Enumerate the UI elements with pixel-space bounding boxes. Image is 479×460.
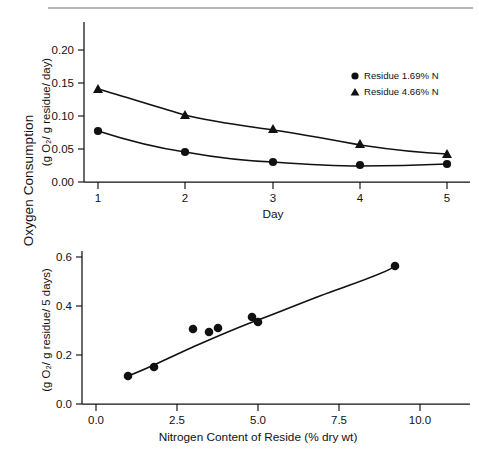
top-panel-y-tick-2: 0.10 xyxy=(52,110,74,122)
scatter-point xyxy=(254,318,263,327)
bottom-panel-y-ticks: 0.0 0.2 0.4 0.6 xyxy=(56,251,82,410)
scatter-point xyxy=(205,328,214,337)
top-panel-y-tick-1: 0.05 xyxy=(52,143,74,155)
top-panel-x-tick-1: 2 xyxy=(182,192,188,204)
top-panel-x-tick-0: 1 xyxy=(95,192,101,204)
top-panel-y-tick-0: 0.00 xyxy=(52,176,74,188)
top-panel-y-ticks: 0.00 0.05 0.10 0.15 0.20 xyxy=(52,44,84,188)
series-residue-169-markers xyxy=(94,127,451,169)
legend-label-residue-466: Residue 4.66% N xyxy=(364,86,439,97)
figure-container: Oxygen Consumption (g O₂/ g residue/ day… xyxy=(0,0,479,460)
legend-label-residue-169: Residue 1.69% N xyxy=(364,70,439,81)
bottom-panel-y-tick-2: 0.4 xyxy=(56,300,73,312)
bottom-panel-y-tick-1: 0.2 xyxy=(56,349,72,361)
top-panel-x-axis-title: Day xyxy=(263,207,284,221)
top-panel-x-ticks: 1 2 3 4 5 xyxy=(95,182,450,204)
bottom-panel-x-tick-3: 7.5 xyxy=(331,414,347,426)
bottom-panel-x-tick-1: 2.5 xyxy=(169,414,185,426)
scatter-point xyxy=(124,372,133,381)
scatter-point xyxy=(150,363,159,372)
bottom-panel-x-axis-title: Nitrogen Content of Reside (% dry wt) xyxy=(159,430,358,444)
panel-oxygen-total-vs-nitrogen: (g O₂/ g residue/ 5 days) 0.0 0.2 0.4 0.… xyxy=(0,225,479,460)
scatter-points-nitrogen xyxy=(124,262,400,381)
top-panel-y-tick-4: 0.20 xyxy=(52,44,74,56)
top-panel-x-tick-3: 4 xyxy=(357,192,364,204)
bottom-panel-x-tick-2: 5.0 xyxy=(250,414,266,426)
bottom-panel-y-tick-3: 0.6 xyxy=(56,251,72,263)
bottom-panel-y-axis-label: (g O₂/ g residue/ 5 days) xyxy=(40,268,52,392)
top-panel-y-tick-3: 0.15 xyxy=(52,77,74,89)
top-panel-x-tick-4: 5 xyxy=(444,192,450,204)
scatter-point xyxy=(391,262,400,271)
top-panel-y-axis-label: (g O₂/ g residue/ day) xyxy=(40,58,52,166)
top-panel-legend: Residue 1.69% N Residue 4.66% N xyxy=(351,70,439,97)
bottom-panel-x-ticks: 0.0 2.5 5.0 7.5 10.0 xyxy=(88,404,431,426)
bottom-panel-y-tick-0: 0.0 xyxy=(56,398,72,410)
bottom-panel-x-tick-0: 0.0 xyxy=(88,414,104,426)
legend-circle-marker xyxy=(351,72,358,79)
scatter-point xyxy=(189,325,198,334)
top-panel-x-tick-2: 3 xyxy=(270,192,276,204)
scatter-point xyxy=(214,324,223,333)
legend-triangle-marker xyxy=(351,88,360,96)
panel-oxygen-rate-vs-day: (g O₂/ g residue/ day) 0.00 0.05 0.10 0.… xyxy=(0,0,479,225)
bottom-panel-x-tick-4: 10.0 xyxy=(409,414,431,426)
